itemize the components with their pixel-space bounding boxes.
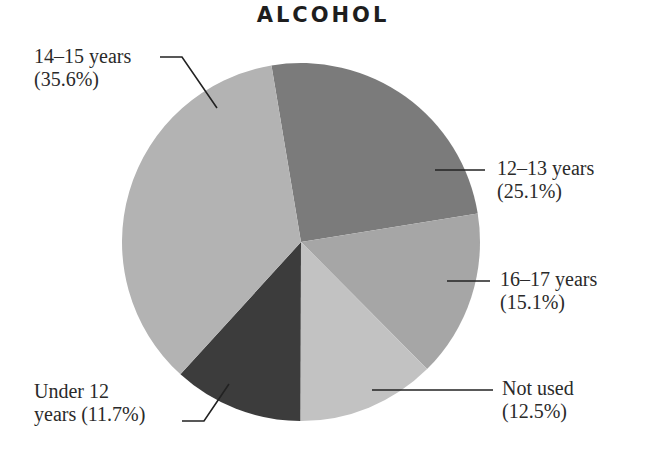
label-14-15-years: 14–15 years (35.6%) xyxy=(34,45,131,91)
label-text: Not used xyxy=(502,377,574,400)
pie-slices xyxy=(122,63,480,421)
label-text: Under 12 xyxy=(34,380,145,403)
label-percent: (12.5%) xyxy=(502,400,574,423)
label-12-13-years: 12–13 years (25.1%) xyxy=(497,157,594,203)
label-percent: years (11.7%) xyxy=(34,403,145,426)
label-text: 12–13 years xyxy=(497,157,594,180)
label-percent: (15.1%) xyxy=(500,291,597,314)
slice-12-13-years xyxy=(271,63,477,242)
label-under-12-years: Under 12 years (11.7%) xyxy=(34,380,145,426)
label-text: 16–17 years xyxy=(500,268,597,291)
label-16-17-years: 16–17 years (15.1%) xyxy=(500,268,597,314)
label-not-used: Not used (12.5%) xyxy=(502,377,574,423)
label-percent: (35.6%) xyxy=(34,68,131,91)
label-percent: (25.1%) xyxy=(497,180,594,203)
label-text: 14–15 years xyxy=(34,45,131,68)
